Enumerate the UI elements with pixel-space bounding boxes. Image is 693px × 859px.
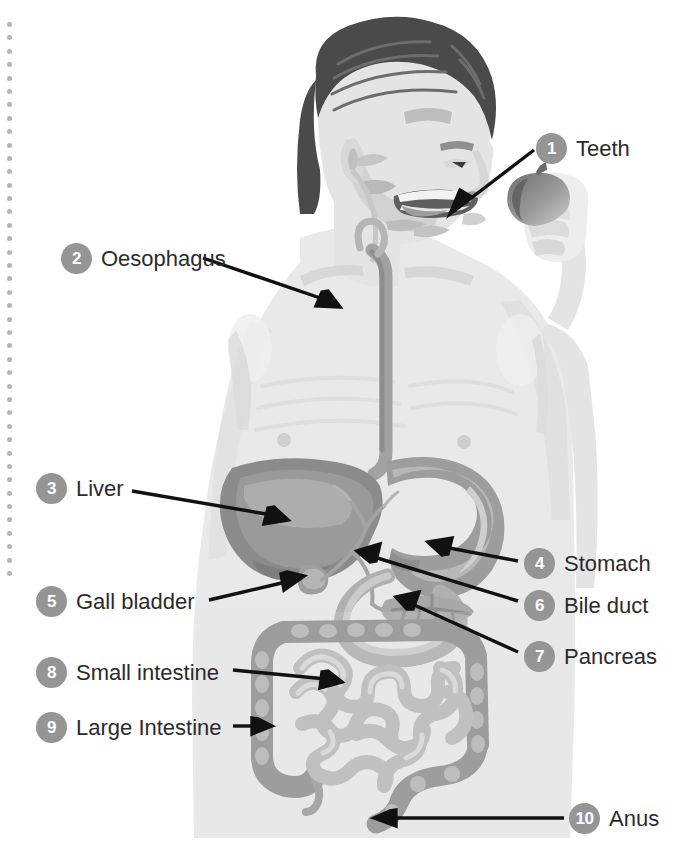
callout-2-oesophagus[interactable]: 2 Oesophagus	[61, 243, 226, 274]
label-text-liver: Liver	[76, 478, 124, 500]
badge-number-10: 10	[569, 803, 600, 834]
badge-number-1: 1	[536, 133, 567, 164]
callout-9-large-intestine[interactable]: 9 Large Intestine	[36, 712, 222, 743]
callout-6-bile-duct[interactable]: 6 Bile duct	[524, 590, 648, 621]
label-text-teeth: Teeth	[576, 138, 630, 160]
badge-number-5: 5	[36, 586, 67, 617]
callout-5-gall-bladder[interactable]: 5 Gall bladder	[36, 586, 195, 617]
label-text-large-intestine: Large Intestine	[76, 717, 222, 739]
label-text-stomach: Stomach	[564, 553, 651, 575]
callout-4-stomach[interactable]: 4 Stomach	[524, 548, 651, 579]
callout-1-teeth[interactable]: 1 Teeth	[536, 133, 630, 164]
badge-number-8: 8	[36, 657, 67, 688]
badge-number-9: 9	[36, 712, 67, 743]
callout-8-small-intestine[interactable]: 8 Small intestine	[36, 657, 219, 688]
label-text-small-intestine: Small intestine	[76, 662, 219, 684]
label-text-gall-bladder: Gall bladder	[76, 591, 195, 613]
callout-10-anus[interactable]: 10 Anus	[569, 803, 659, 834]
badge-number-4: 4	[524, 548, 555, 579]
label-text-bile-duct: Bile duct	[564, 595, 648, 617]
badge-number-6: 6	[524, 590, 555, 621]
label-text-anus: Anus	[609, 808, 659, 830]
digestive-system-diagram-page: 1 Teeth 2 Oesophagus 3 Liver 4 Stomach 5…	[0, 0, 693, 859]
badge-number-3: 3	[36, 473, 67, 504]
label-text-pancreas: Pancreas	[564, 646, 657, 668]
callout-7-pancreas[interactable]: 7 Pancreas	[524, 641, 657, 672]
callout-3-liver[interactable]: 3 Liver	[36, 473, 124, 504]
badge-number-7: 7	[524, 641, 555, 672]
badge-number-2: 2	[61, 243, 92, 274]
label-text-oesophagus: Oesophagus	[101, 248, 226, 270]
